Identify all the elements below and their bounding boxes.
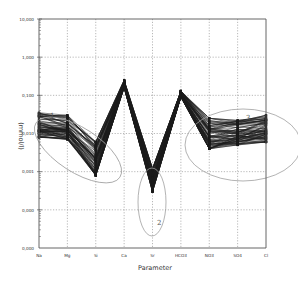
- cluster-1-label: 1: [50, 112, 54, 120]
- x-tick-label: NO3: [205, 253, 214, 258]
- x-axis-title: Parameter: [138, 264, 172, 272]
- y-tick-label: 10,000: [19, 17, 34, 22]
- y-axis-title: (mmol/l): [17, 122, 25, 150]
- y-tick-label: 0,100: [22, 93, 34, 98]
- parameter-profile-chart: 1 2 3 10,000 1,000 0,100 0,010 0,001 0,0…: [0, 0, 298, 284]
- x-tick-label: HCO3: [175, 253, 187, 258]
- x-tick-label: Na: [36, 253, 42, 258]
- cluster-2-label: 2: [157, 219, 161, 227]
- x-tick-labels: Na Mg Si Ca Sr HCO3 NO3 SO4 Cl: [36, 253, 268, 258]
- cluster-3-label: 3: [246, 114, 250, 122]
- y-tick-label: 0,000: [22, 246, 34, 251]
- y-tick-label: 0,001: [22, 169, 34, 174]
- x-tick-label: Mg: [64, 253, 71, 258]
- x-tick-label: Ca: [121, 253, 127, 258]
- x-tick-label: Cl: [264, 253, 268, 258]
- x-tick-label: Sr: [150, 253, 155, 258]
- x-tick-label: Si: [94, 253, 98, 258]
- y-tick-label: 1,000: [22, 55, 34, 60]
- y-tick-label: 0,000: [22, 208, 34, 213]
- sample-profile-lines: [38, 79, 267, 193]
- x-tick-label: SO4: [233, 253, 242, 258]
